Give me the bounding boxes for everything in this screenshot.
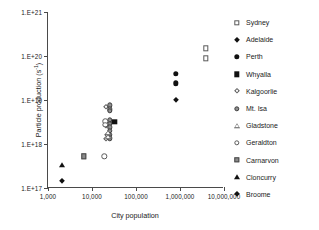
data-point xyxy=(173,71,178,76)
y-axis-tick-label: 1.E+21 xyxy=(21,9,42,16)
legend-item[interactable]: Geraldton xyxy=(232,134,318,151)
y-axis-tick-label: 1.E+18 xyxy=(21,141,42,148)
data-point xyxy=(173,81,178,86)
chart-figure: Particle production (s-1) City populatio… xyxy=(0,0,319,230)
y-axis-tick-label: 1.E+19 xyxy=(21,97,42,104)
y-axis-tick xyxy=(44,12,48,13)
legend-marker-icon xyxy=(232,104,242,114)
legend-marker-icon xyxy=(232,86,242,96)
legend-item-label: Carnarvon xyxy=(246,157,279,164)
legend-item-label: Adelaide xyxy=(246,36,273,43)
data-point xyxy=(203,46,208,51)
legend-marker-glyph xyxy=(234,123,240,128)
x-axis-title: City population xyxy=(111,211,159,220)
x-axis-tick xyxy=(48,187,49,191)
x-axis-tick xyxy=(92,187,93,191)
x-axis-tick-label: 1,000,000 xyxy=(166,193,195,200)
data-point xyxy=(173,97,179,103)
y-axis-tick-label: 1.E+20 xyxy=(21,53,42,60)
legend-item-label: Whyalla xyxy=(246,71,271,78)
legend-marker-icon xyxy=(232,35,242,45)
legend-marker-icon xyxy=(232,69,242,79)
legend-marker-glyph xyxy=(234,37,240,43)
legend-marker-glyph xyxy=(234,106,239,111)
legend-marker-icon xyxy=(232,138,242,148)
data-point xyxy=(203,56,208,61)
legend-marker-glyph xyxy=(234,192,240,198)
legend-marker-icon xyxy=(232,18,242,28)
legend-item[interactable]: Carnarvon xyxy=(232,152,318,169)
x-axis-tick-label: 1,000 xyxy=(40,193,56,200)
x-axis-tick-label: 10,000 xyxy=(82,193,102,200)
legend-marker-icon xyxy=(232,172,242,182)
legend-marker-glyph xyxy=(234,54,239,59)
legend-marker-glyph xyxy=(234,88,240,94)
data-point xyxy=(59,178,65,184)
legend-marker-icon xyxy=(232,189,242,199)
legend-item-label: Gladstone xyxy=(246,122,278,129)
legend-item-label: Sydney xyxy=(246,19,269,26)
legend-item-label: Mt. Isa xyxy=(246,105,267,112)
legend-item-label: Geraldton xyxy=(246,139,277,146)
legend-item-label: Cloncurry xyxy=(246,174,276,181)
legend-marker-glyph xyxy=(234,140,239,145)
data-point xyxy=(102,154,107,159)
y-axis-tick xyxy=(44,56,48,57)
x-axis-tick xyxy=(136,187,137,191)
legend-item-label: Kalgoorlie xyxy=(246,88,277,95)
chart-legend: SydneyAdelaidePerthWhyallaKalgoorlieMt. … xyxy=(232,14,318,203)
plot-area: 1.E+171.E+181.E+191.E+201.E+211,00010,00… xyxy=(47,12,223,188)
legend-item[interactable]: Whyalla xyxy=(232,66,318,83)
x-axis-tick-label: 100,000 xyxy=(124,193,147,200)
legend-item[interactable]: Mt. Isa xyxy=(232,100,318,117)
x-axis-tick xyxy=(180,187,181,191)
x-axis-tick xyxy=(224,187,225,191)
legend-marker-glyph xyxy=(234,175,240,180)
legend-item-label: Perth xyxy=(246,53,263,60)
data-point xyxy=(81,154,86,159)
legend-marker-icon xyxy=(232,155,242,165)
data-point xyxy=(112,119,117,124)
y-axis-tick-label: 1.E+17 xyxy=(21,185,42,192)
legend-item[interactable]: Cloncurry xyxy=(232,169,318,186)
legend-marker-icon xyxy=(232,52,242,62)
data-point xyxy=(59,162,65,167)
legend-item[interactable]: Broome xyxy=(232,186,318,203)
legend-marker-glyph xyxy=(234,20,239,25)
data-point xyxy=(105,134,111,139)
legend-item[interactable]: Perth xyxy=(232,48,318,65)
legend-item[interactable]: Sydney xyxy=(232,14,318,31)
legend-item[interactable]: Gladstone xyxy=(232,117,318,134)
y-axis-tick xyxy=(44,144,48,145)
legend-item-label: Broome xyxy=(246,191,271,198)
y-axis-tick xyxy=(44,100,48,101)
legend-item[interactable]: Adelaide xyxy=(232,31,318,48)
data-point xyxy=(107,108,112,113)
legend-item[interactable]: Kalgoorlie xyxy=(232,83,318,100)
legend-marker-glyph xyxy=(234,71,239,76)
legend-marker-icon xyxy=(232,121,242,131)
legend-marker-glyph xyxy=(234,157,239,162)
